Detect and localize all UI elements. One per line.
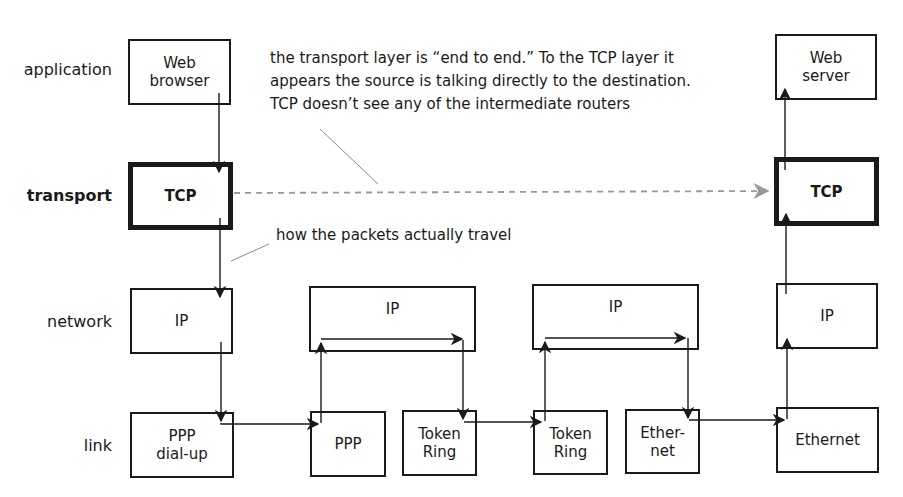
destination-network-box: IP	[776, 283, 878, 349]
arrow-dialup-to-router1	[221, 423, 318, 424]
source-link-label: PPP dial-up	[156, 427, 208, 463]
source-application-label: Web browser	[149, 54, 209, 90]
destination-transport-label: TCP	[810, 183, 842, 201]
router2-link-in-label: Token Ring	[549, 425, 592, 461]
router2-network-box: IP	[532, 284, 699, 350]
source-application-box: Web browser	[128, 39, 231, 105]
source-link-box: PPP dial-up	[130, 412, 234, 478]
router1-link-in-label: PPP	[334, 435, 361, 453]
destination-link-label: Ethernet	[795, 431, 860, 449]
router1-network-label: IP	[386, 300, 399, 318]
destination-transport-box: TCP	[774, 157, 879, 226]
router1-link-out-box: Token Ring	[402, 410, 477, 476]
layer-label-link: link	[0, 436, 112, 455]
source-transport-label: TCP	[164, 187, 196, 205]
actual-path-pointer	[231, 244, 269, 261]
destination-network-label: IP	[820, 307, 833, 325]
destination-link-box: Ethernet	[776, 407, 879, 473]
destination-application-box: Web server	[775, 34, 877, 100]
router1-network-box: IP	[309, 286, 476, 352]
destination-application-label: Web server	[802, 49, 849, 85]
source-transport-box: TCP	[128, 162, 233, 230]
layer-label-network: network	[0, 312, 112, 331]
actual-path-annotation: how the packets actually travel	[276, 224, 511, 247]
end-to-end-pointer	[320, 129, 378, 184]
router2-link-out-box: Ether- net	[625, 409, 700, 474]
source-network-label: IP	[175, 312, 188, 330]
logical-tcp-link	[234, 191, 768, 193]
router1-link-in-box: PPP	[310, 411, 386, 477]
router2-link-out-label: Ether- net	[640, 424, 685, 460]
end-to-end-annotation: the transport layer is “end to end.” To …	[270, 47, 691, 116]
router2-network-label: IP	[609, 298, 622, 316]
router1-link-out-label: Token Ring	[418, 425, 461, 461]
router2-link-in-box: Token Ring	[533, 410, 608, 475]
source-network-box: IP	[130, 288, 233, 354]
layer-label-application: application	[0, 60, 112, 79]
layer-label-transport: transport	[0, 186, 112, 205]
